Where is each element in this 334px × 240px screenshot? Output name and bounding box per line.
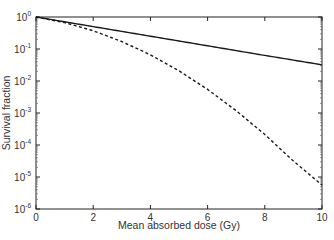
y-tick-label: 10-4 [14,138,31,151]
x-tick-label: 0 [33,212,39,223]
x-axis-title: Mean absorbed dose (Gy) [118,219,240,231]
x-axis-ticks: 0246810 [33,17,328,223]
survival-chart: 10010-110-210-310-410-510-6 0246810 Mean… [0,0,334,240]
y-tick-label: 100 [16,10,31,23]
x-tick-label: 2 [90,212,96,223]
y-tick-label: 10-6 [14,202,31,215]
y-axis-ticks: 10010-110-210-310-410-510-6 [14,10,322,215]
y-tick-label: 10-3 [14,106,31,119]
x-tick-label: 8 [262,212,268,223]
y-tick-label: 10-1 [14,42,31,55]
y-tick-label: 10-5 [14,170,31,183]
y-tick-label: 10-2 [14,74,31,87]
solid-curve [36,17,322,65]
plot-frame [36,17,322,209]
data-series [36,17,322,185]
y-axis-title: Survival fraction [0,75,12,150]
dashed-curve [36,17,322,185]
x-tick-label: 10 [316,212,328,223]
